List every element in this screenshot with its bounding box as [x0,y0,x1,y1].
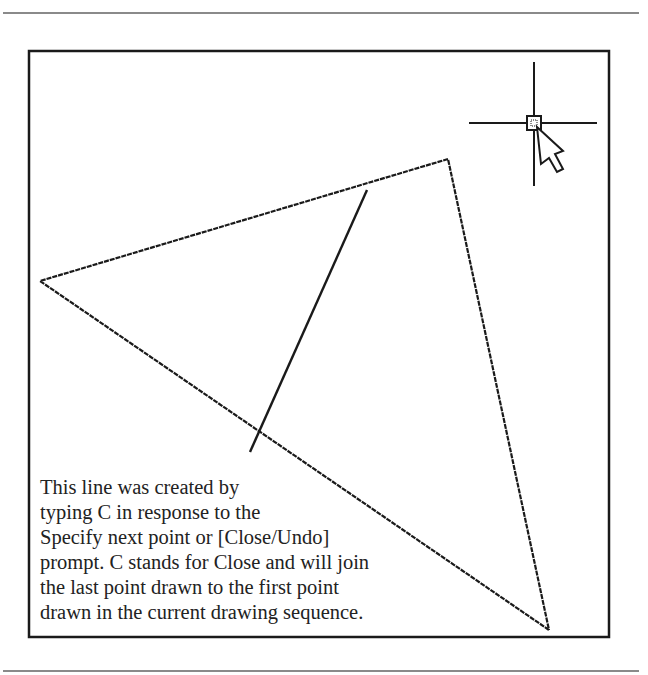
arrow-pointer-icon [537,127,563,172]
caption-line: This line was created by [40,475,370,500]
caption-line: drawn in the current drawing sequence. [40,600,370,625]
crosshair-cursor-icon [469,62,597,186]
caption-line: prompt. C stands for Close and will join [40,550,370,575]
bottom-rule [3,670,639,672]
caption-line: typing C in response to the [40,500,370,525]
caption-line: the last point drawn to the first point [40,575,370,600]
caption: This line was created by typing C in res… [40,475,370,625]
caption-line: Specify next point or [Close/Undo] [40,525,370,550]
close-line [250,190,367,452]
